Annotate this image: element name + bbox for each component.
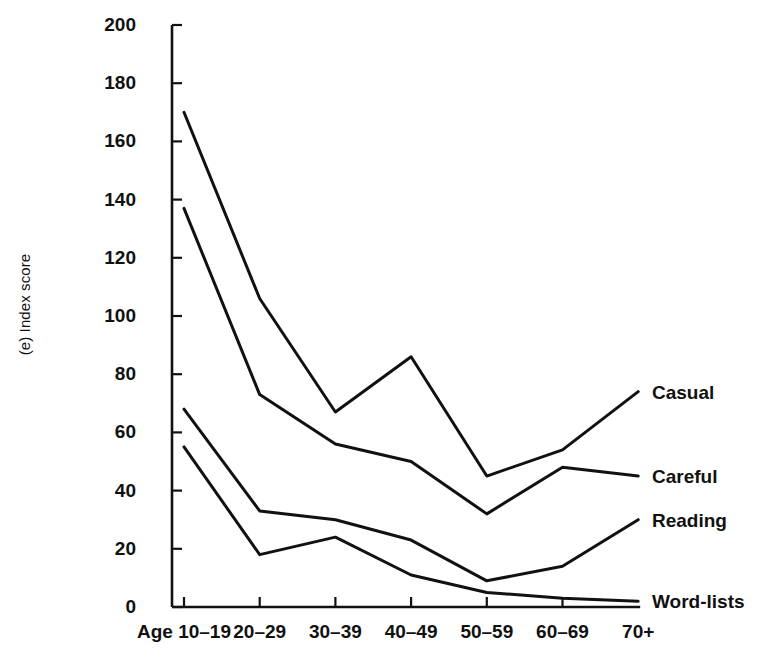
plot-area <box>0 0 761 666</box>
series-lines <box>184 112 638 601</box>
series-line-word-lists <box>184 447 638 601</box>
series-line-careful <box>184 208 638 514</box>
series-line-casual <box>184 112 638 476</box>
series-line-reading <box>184 409 638 581</box>
chart-container: (e) Index score 020406080100120140160180… <box>0 0 761 666</box>
axes <box>172 25 640 607</box>
